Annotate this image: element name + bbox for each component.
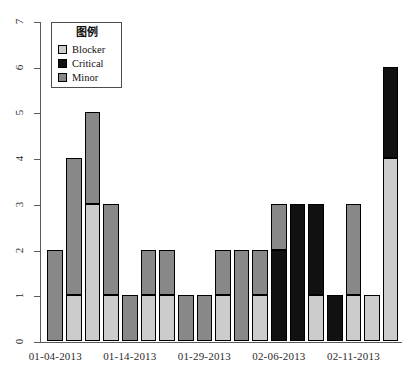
bar-segment-blocker[interactable]	[141, 295, 157, 341]
bar-group[interactable]	[271, 21, 287, 341]
legend-swatch-icon	[58, 45, 67, 54]
bar-segment-minor[interactable]	[47, 250, 63, 341]
y-axis-tick-label: 7	[14, 11, 25, 33]
bar-segment-minor[interactable]	[103, 204, 119, 295]
bar-group[interactable]	[215, 21, 231, 341]
bar-group[interactable]	[141, 21, 157, 341]
legend-item-critical[interactable]: Critical	[52, 56, 121, 70]
bar-segment-critical[interactable]	[290, 204, 306, 341]
legend-item-minor[interactable]: Minor	[52, 70, 121, 84]
x-axis-tick-label: 01-29-2013	[169, 350, 239, 362]
bar-segment-minor[interactable]	[122, 295, 138, 341]
y-axis-tick-label: 5	[14, 102, 25, 124]
bar-segment-minor[interactable]	[271, 204, 287, 250]
bar-segment-minor[interactable]	[346, 204, 362, 295]
bar-segment-critical[interactable]	[308, 204, 324, 295]
bar-segment-minor[interactable]	[197, 295, 213, 341]
x-axis-line	[40, 342, 402, 343]
y-axis-tick	[34, 22, 40, 23]
legend-entries: BlockerCriticalMinor	[52, 42, 121, 84]
y-axis-tick-label: 2	[14, 239, 25, 261]
y-axis-tick	[34, 296, 40, 297]
bar-group[interactable]	[252, 21, 268, 341]
y-axis-tick	[34, 159, 40, 160]
y-axis-tick	[34, 251, 40, 252]
bar-segment-blocker[interactable]	[383, 158, 399, 341]
bar-segment-minor[interactable]	[178, 295, 194, 341]
bar-group[interactable]	[197, 21, 213, 341]
y-axis-tick	[34, 342, 40, 343]
x-axis-tick-label: 01-14-2013	[95, 350, 165, 362]
bar-segment-blocker[interactable]	[215, 295, 231, 341]
bar-segment-blocker[interactable]	[66, 295, 82, 341]
x-axis-tick-label: 01-04-2013	[20, 350, 90, 362]
bar-group[interactable]	[308, 21, 324, 341]
y-axis-tick-label: 1	[14, 285, 25, 307]
bar-group[interactable]	[178, 21, 194, 341]
bar-segment-blocker[interactable]	[252, 295, 268, 341]
bar-segment-minor[interactable]	[66, 158, 82, 295]
bar-group[interactable]	[234, 21, 250, 341]
bar-segment-minor[interactable]	[85, 112, 101, 203]
bar-group[interactable]	[327, 21, 343, 341]
legend-swatch-icon	[58, 73, 67, 82]
legend-item-label: Minor	[72, 72, 98, 83]
bar-segment-minor[interactable]	[234, 250, 250, 341]
bar-segment-critical[interactable]	[327, 295, 343, 341]
bar-segment-critical[interactable]	[383, 67, 399, 158]
bar-segment-minor[interactable]	[141, 250, 157, 296]
bar-segment-blocker[interactable]	[103, 295, 119, 341]
legend-item-label: Critical	[72, 58, 104, 69]
bar-group[interactable]	[122, 21, 138, 341]
bar-segment-blocker[interactable]	[85, 204, 101, 341]
x-axis-tick-label: 02-11-2013	[318, 350, 388, 362]
bar-segment-minor[interactable]	[215, 250, 231, 296]
y-axis-tick	[34, 68, 40, 69]
y-axis-tick	[34, 205, 40, 206]
bar-group[interactable]	[346, 21, 362, 341]
y-axis-tick-label: 6	[14, 56, 25, 78]
bar-segment-blocker[interactable]	[159, 295, 175, 341]
y-axis-tick-label: 4	[14, 148, 25, 170]
bar-group[interactable]	[383, 21, 399, 341]
bar-segment-minor[interactable]	[159, 250, 175, 296]
bar-group[interactable]	[290, 21, 306, 341]
bar-segment-blocker[interactable]	[364, 295, 380, 341]
legend-item-blocker[interactable]: Blocker	[52, 42, 121, 56]
bar-segment-blocker[interactable]	[308, 295, 324, 341]
x-axis-tick-label: 02-06-2013	[244, 350, 314, 362]
chart-legend: 图例 BlockerCriticalMinor	[51, 22, 122, 88]
y-axis-line	[40, 22, 41, 342]
legend-swatch-icon	[58, 59, 67, 68]
stacked-bar-chart: 01234567 01-04-201301-14-201301-29-20130…	[0, 0, 410, 375]
bar-segment-critical[interactable]	[271, 250, 287, 341]
y-axis-tick-label: 3	[14, 193, 25, 215]
bar-group[interactable]	[159, 21, 175, 341]
bar-segment-minor[interactable]	[252, 250, 268, 296]
bar-group[interactable]	[364, 21, 380, 341]
bar-segment-blocker[interactable]	[346, 295, 362, 341]
legend-item-label: Blocker	[72, 44, 105, 55]
legend-title: 图例	[52, 27, 121, 39]
y-axis-tick	[34, 113, 40, 114]
